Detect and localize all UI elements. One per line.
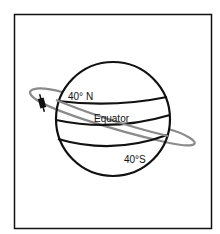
orbit-diagram: 40° N Equator 40°S [0, 0, 220, 234]
latitude-40s-line [58, 135, 167, 146]
label-40n: 40° N [68, 91, 93, 102]
label-equator: Equator [94, 113, 130, 124]
label-40s: 40°S [124, 154, 146, 165]
satellite-icon [38, 94, 46, 111]
